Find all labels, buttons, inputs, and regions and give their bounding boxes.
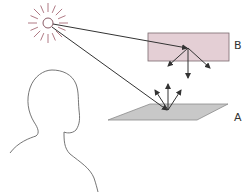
label-b: B xyxy=(234,39,242,52)
person-silhouette xyxy=(10,70,98,192)
sun-icon xyxy=(28,3,68,43)
label-a: A xyxy=(234,111,242,124)
diagram-canvas xyxy=(0,0,251,195)
